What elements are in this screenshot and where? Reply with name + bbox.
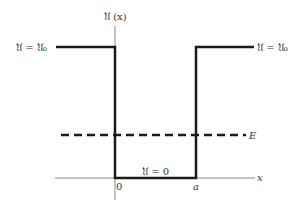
well-width-label: a [193,181,199,192]
potential-curve [56,47,254,178]
left-level-label: 𝔘 = 𝔘₀ [16,42,47,53]
potential-well-diagram: 𝔘 (x) 𝔘 = 𝔘₀ 𝔘 = 𝔘₀ 𝔘 = 0 0 a x E [0,0,307,209]
right-level-label: 𝔘 = 𝔘₀ [257,42,288,53]
bottom-level-label: 𝔘 = 0 [142,166,169,177]
y-axis-label: 𝔘 (x) [104,11,127,22]
origin-label: 0 [116,181,122,192]
energy-label: E [248,130,257,141]
x-axis-label: x [257,172,263,183]
